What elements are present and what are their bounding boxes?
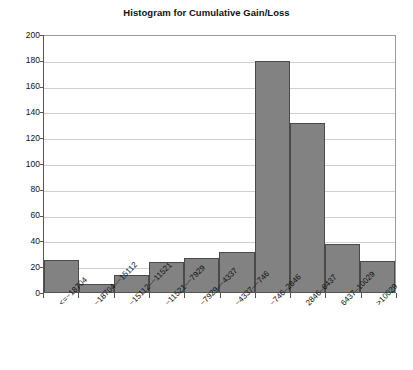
- y-axis-tick-mark: [40, 112, 44, 113]
- x-axis-tick-mark: [149, 293, 150, 298]
- y-axis-tick-mark: [40, 61, 44, 62]
- x-axis-tick-mark: [290, 293, 291, 298]
- x-axis-tick-label: 2846–6437: [304, 273, 339, 308]
- x-axis-tick-mark: [184, 293, 185, 298]
- y-axis-tick-mark: [40, 267, 44, 268]
- x-axis-tick-mark: [220, 293, 221, 298]
- x-axis-tick-mark: [361, 293, 362, 298]
- x-axis-tick-mark: [114, 293, 115, 298]
- y-axis-tick-mark: [40, 164, 44, 165]
- x-axis-tick-mark: [78, 293, 79, 298]
- x-axis-tick-mark: [255, 293, 256, 298]
- y-axis-tick-mark: [40, 241, 44, 242]
- y-axis-tick-mark: [40, 35, 44, 36]
- y-axis-tick-mark: [40, 216, 44, 217]
- x-axis-labels: <=−18704−18704–−15112−15112–−11521−11521…: [0, 0, 413, 370]
- histogram-chart: Histogram for Cumulative Gain/Loss 02040…: [0, 0, 413, 370]
- x-axis-tick-mark: [396, 293, 397, 298]
- x-axis-tick-label: −746–2846: [268, 273, 303, 308]
- x-axis-tick-label: −4337–−746: [233, 269, 271, 307]
- y-axis-tick-mark: [40, 138, 44, 139]
- x-axis-tick-mark: [325, 293, 326, 298]
- x-axis-tick-label: <=−18704: [57, 275, 89, 307]
- y-axis-tick-mark: [40, 87, 44, 88]
- x-axis-tick-label: 6437–10029: [339, 270, 377, 308]
- y-axis-tick-mark: [40, 293, 44, 294]
- y-axis-tick-mark: [40, 190, 44, 191]
